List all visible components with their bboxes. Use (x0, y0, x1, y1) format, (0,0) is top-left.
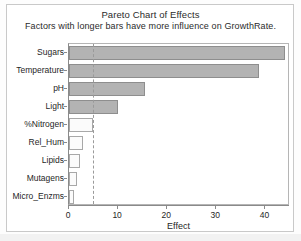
y-tick-label: Sugars (37, 47, 64, 57)
y-tick-label: Micro_Enzms (13, 191, 64, 201)
bar-row (69, 44, 288, 62)
bar-row (69, 116, 288, 134)
bar-sugars (69, 46, 285, 60)
bar-row (69, 98, 288, 116)
bar-row (69, 134, 288, 152)
y-tick-label: Light (46, 101, 64, 111)
bar-row (69, 170, 288, 188)
bar-row (69, 188, 288, 206)
y-tick-mark (64, 106, 67, 107)
bar-row (69, 152, 288, 170)
x-tick-mark (166, 205, 167, 209)
y-tick-label: Rel_Hum (29, 137, 64, 147)
x-axis-title: Effect (68, 221, 289, 231)
bar-row (69, 80, 288, 98)
x-tick-mark (264, 205, 265, 209)
y-tick-mark (64, 70, 67, 71)
y-tick-label: Mutagens (27, 173, 64, 183)
x-tick-label: 20 (161, 210, 170, 220)
y-tick-mark (64, 142, 67, 143)
bar-temperature (69, 64, 259, 78)
reference-line (93, 44, 94, 204)
bar-row (69, 62, 288, 80)
y-tick-mark (64, 160, 67, 161)
x-axis-line (68, 205, 289, 206)
bar-nitrogen (69, 118, 93, 132)
y-tick-mark (64, 88, 67, 89)
bar-ph (69, 82, 145, 96)
x-tick-mark (117, 205, 118, 209)
y-tick-label: pH (53, 83, 64, 93)
bar-micro-enzms (69, 190, 74, 204)
y-axis-labels: SugarsTemperaturepHLight%NitrogenRel_Hum… (0, 43, 64, 205)
y-tick-label: %Nitrogen (24, 119, 64, 129)
y-tick-mark (64, 178, 67, 179)
bar-mutagens (69, 172, 77, 186)
pareto-chart: Pareto Chart of Effects Factors with lon… (0, 0, 301, 241)
plot-area (68, 43, 289, 205)
bar-lipids (69, 154, 80, 168)
x-tick-label: 10 (112, 210, 121, 220)
y-tick-label: Temperature (16, 65, 64, 75)
x-tick-label: 0 (66, 210, 71, 220)
bar-series (69, 44, 288, 204)
bar-rel-hum (69, 136, 83, 150)
bottom-edge (0, 234, 301, 241)
x-tick-mark (215, 205, 216, 209)
y-tick-mark (64, 124, 67, 125)
y-tick-mark (64, 196, 67, 197)
chart-subtitle: Factors with longer bars have more influ… (0, 21, 301, 31)
y-tick-label: Lipids (42, 155, 64, 165)
y-tick-mark (64, 52, 67, 53)
x-tick-mark (68, 205, 69, 209)
chart-title: Pareto Chart of Effects (0, 9, 301, 20)
x-tick-label: 40 (260, 210, 269, 220)
x-tick-label: 30 (211, 210, 220, 220)
